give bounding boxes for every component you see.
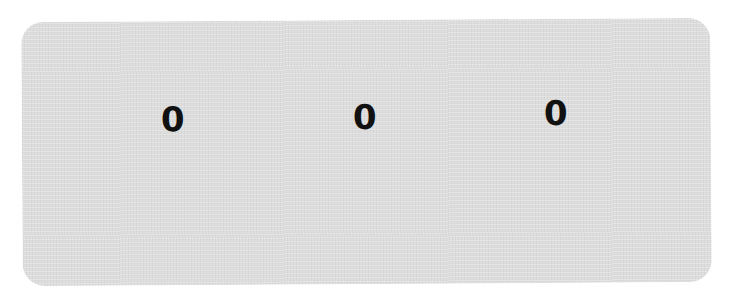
counter-digit-2: 0: [345, 100, 385, 134]
counter-digit-1: 0: [153, 102, 193, 136]
counter-digit-3: 0: [536, 96, 576, 130]
counter-display-panel: 0 0 0: [21, 18, 712, 286]
